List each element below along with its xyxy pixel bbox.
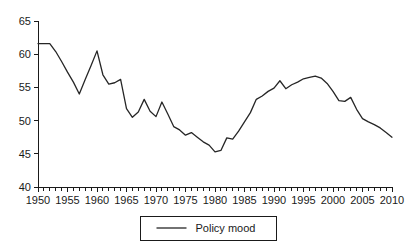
chart-figure: 404550556065 195019551960196519701975198… [0, 0, 417, 249]
x-tick-label: 2010 [380, 194, 404, 206]
y-axis: 404550556065 [19, 15, 38, 193]
y-tick-label: 65 [19, 15, 31, 27]
x-tick-label: 1965 [114, 194, 138, 206]
x-tick-label: 1995 [291, 194, 315, 206]
y-tick-label: 50 [19, 115, 31, 127]
x-tick-label: 1975 [173, 194, 197, 206]
x-tick-label: 2005 [350, 194, 374, 206]
x-tick-label: 2000 [321, 194, 345, 206]
series-line-policy-mood [38, 44, 392, 152]
y-tick-label: 55 [19, 81, 31, 93]
x-tick-label: 1990 [262, 194, 286, 206]
line-chart: 404550556065 195019551960196519701975198… [0, 0, 417, 249]
series-policy-mood [38, 44, 392, 152]
x-tick-label: 1980 [203, 194, 227, 206]
x-tick-label: 1970 [144, 194, 168, 206]
y-tick-label: 45 [19, 148, 31, 160]
x-tick-label: 1960 [85, 194, 109, 206]
legend-label: Policy mood [196, 222, 256, 234]
y-tick-label: 40 [19, 181, 31, 193]
x-tick-label: 1950 [26, 194, 50, 206]
chart-legend: Policy mood [141, 216, 277, 240]
x-tick-label: 1955 [55, 194, 79, 206]
x-axis: 1950195519601965197019751980198519901995… [26, 187, 404, 206]
x-tick-label: 1985 [232, 194, 256, 206]
y-tick-label: 60 [19, 48, 31, 60]
